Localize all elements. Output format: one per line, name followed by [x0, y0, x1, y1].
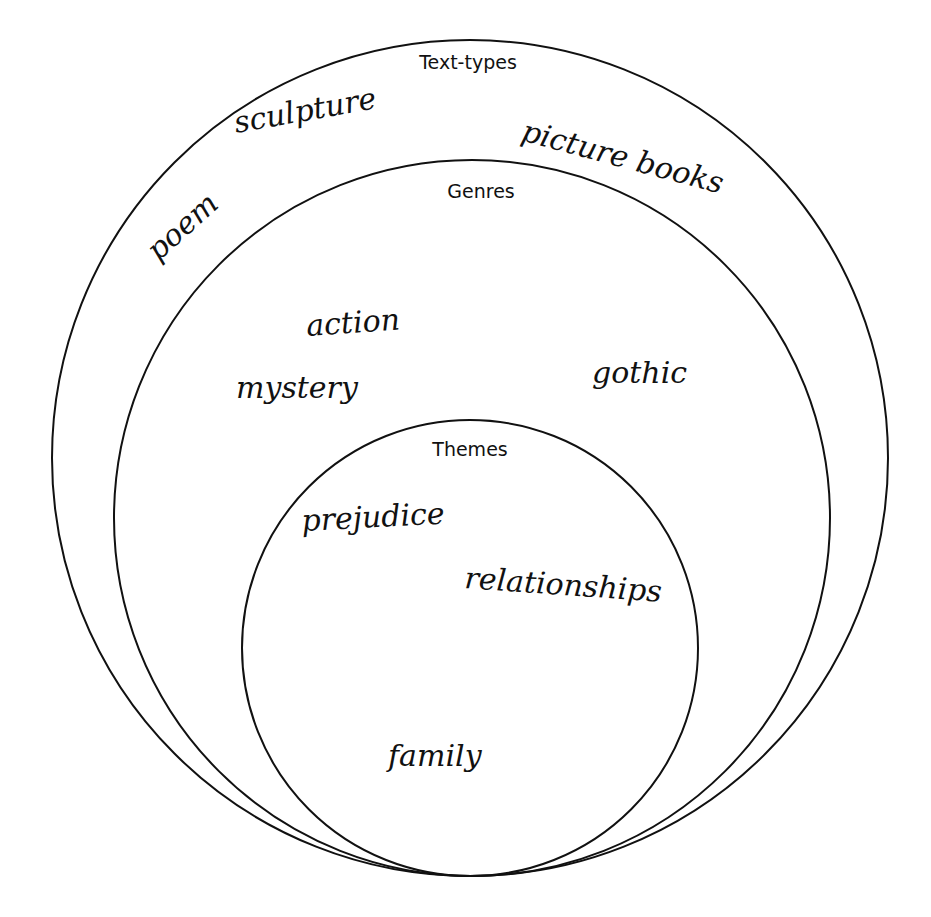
themes-group: Themes prejudice relationships family [242, 420, 698, 876]
text-types-heading: Text-types [418, 51, 517, 73]
genres-item-mystery: mystery [236, 370, 359, 405]
themes-item-prejudice: prejudice [301, 496, 446, 538]
genres-heading: Genres [447, 180, 514, 202]
genres-item-gothic: gothic [592, 355, 687, 390]
text-types-item-picture-books: picture books [518, 113, 728, 201]
themes-item-relationships: relationships [464, 560, 663, 609]
text-types-item-sculpture: sculpture [231, 80, 379, 139]
themes-item-family: family [386, 738, 483, 773]
text-types-item-poem: poem [139, 185, 224, 267]
nested-circles-diagram: Text-types sculpture picture books poem … [0, 0, 931, 917]
genres-item-action: action [305, 302, 401, 343]
themes-heading: Themes [431, 438, 507, 460]
themes-circle [242, 420, 698, 876]
